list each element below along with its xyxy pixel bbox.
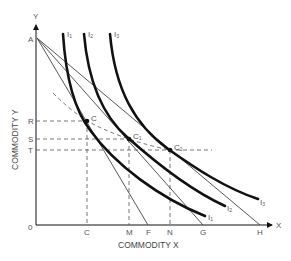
i3-end-label: I3 [260, 198, 265, 207]
x-tick-f: F [146, 228, 151, 237]
x-axis-title: COMMODITY X [118, 240, 179, 250]
y-axis-title: COMMODITY Y [10, 109, 20, 170]
i1-end-label: I1 [208, 213, 213, 222]
i2-top-label: I2 [88, 30, 93, 39]
point-c2 [168, 148, 173, 153]
y-axis-letter: Y [33, 12, 39, 21]
i3-top-label: I3 [114, 30, 119, 39]
i1-top-label: I1 [67, 30, 72, 39]
point-c1 [127, 137, 132, 142]
x-tick-m: M [126, 228, 133, 237]
x-axis-letter: X [276, 221, 282, 230]
consumer-equilibrium-diagram: Y X 0 COMMODITY X COMMODITY Y A I1 I2 I3… [0, 0, 291, 261]
point-c1-label: C1 [133, 132, 142, 141]
budget-origin-label-a: A [28, 35, 34, 44]
y-tick-t: T [28, 146, 33, 155]
origin-label: 0 [28, 223, 33, 232]
indifference-curve-i2 [84, 34, 225, 206]
x-tick-h: H [257, 228, 263, 237]
curve-labels: I1 I2 I3 I1 I2 I3 [67, 30, 265, 222]
indifference-curves [63, 34, 258, 216]
point-c [85, 119, 90, 124]
y-tick-labels: R S T [28, 117, 34, 155]
y-tick-s: S [28, 135, 33, 144]
point-c-label: C [91, 114, 97, 123]
x-tick-c: C [84, 228, 90, 237]
i2-end-label: I2 [227, 204, 232, 213]
point-c2-label: C2 [174, 143, 183, 152]
x-tick-n: N [167, 228, 173, 237]
x-tick-labels: C M F N G H [84, 228, 263, 237]
x-tick-g: G [200, 228, 206, 237]
indifference-curve-i1 [63, 34, 205, 216]
y-tick-r: R [28, 117, 34, 126]
